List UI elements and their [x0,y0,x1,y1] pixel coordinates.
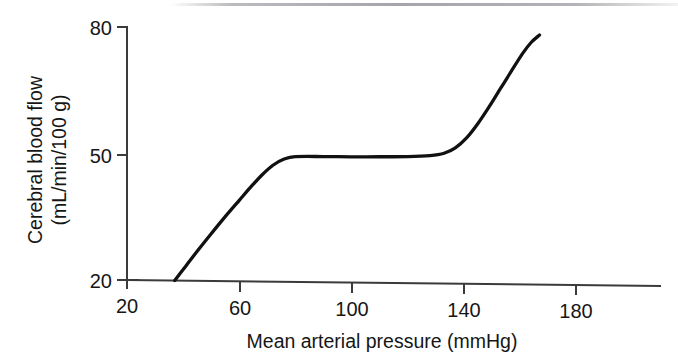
y-tick-label-50: 50 [90,145,112,167]
y-axis-title-line1: Cerebral blood flow [24,75,46,244]
x-tick-label-140: 140 [447,299,480,321]
x-tick-label-100: 100 [335,298,368,320]
data-series-line [175,35,540,281]
x-tick-label-180: 180 [559,300,592,322]
y-tick-label-80: 80 [90,17,112,39]
cerebral-blood-flow-chart: 80 50 20 20 60 100 140 180 Mean arterial… [0,0,678,362]
x-axis-title: Mean arterial pressure (mmHg) [247,330,518,352]
x-tick-label-60: 60 [229,297,251,319]
x-tick-label-20: 20 [116,295,138,317]
x-axis-line [127,280,661,286]
y-axis-title-line2: (mL/min/100 g) [48,94,70,225]
figure-container: 80 50 20 20 60 100 140 180 Mean arterial… [0,0,678,362]
y-tick-label-20: 20 [90,270,112,292]
